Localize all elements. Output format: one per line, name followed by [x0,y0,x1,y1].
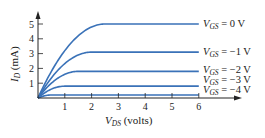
y-tick-label: 2 [29,63,34,74]
curve-label-0: VGS = 0 V [203,18,245,31]
curve-labels: VGS = 0 VVGS = −1 VVGS = −2 VVGS = −3 VV… [203,18,251,97]
x-tick-label: 4 [143,101,148,112]
x-tick-label: 6 [196,101,201,112]
y-tick-label: 5 [29,19,34,30]
y-axis-label: ID (mA) [8,46,22,83]
y-axis-arrow-icon [36,11,41,19]
characteristic-curves [38,24,199,98]
y-tick-label: 4 [29,33,34,44]
x-axis-ticks: 123456 [62,93,201,112]
x-axis-arrow-icon [234,96,242,101]
y-axis-ticks: 12345 [29,19,43,89]
y-tick-label: 1 [29,78,34,89]
jfet-drain-characteristics-chart: 123456 12345 VGS = 0 VVGS = −1 VVGS = −2… [0,0,265,138]
x-tick-label: 1 [62,101,67,112]
y-tick-label: 3 [29,48,34,59]
x-tick-label: 5 [170,101,175,112]
x-tick-label: 3 [116,101,121,112]
x-tick-label: 2 [89,101,94,112]
curve-label-1: VGS = −1 V [203,46,251,59]
x-axis-label: VDS (volts) [105,114,153,128]
